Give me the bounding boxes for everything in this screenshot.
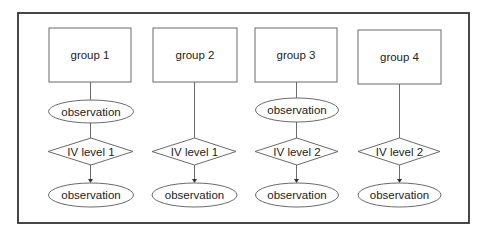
- post-observation-label: observation: [267, 189, 326, 201]
- post-observation-label: observation: [165, 189, 224, 201]
- group-label: group 2: [175, 49, 214, 61]
- solomon-four-group-diagram: group 1 observation IV level 1 observati…: [0, 0, 481, 233]
- treatment-label: IV level 1: [171, 146, 218, 158]
- group-label: group 3: [276, 49, 315, 61]
- treatment-label: IV level 1: [67, 146, 114, 158]
- post-observation-label: observation: [370, 189, 429, 201]
- treatment-label: IV level 2: [376, 146, 423, 158]
- group-label: group 4: [380, 51, 420, 63]
- group-label: group 1: [70, 49, 109, 61]
- treatment-label: IV level 2: [273, 146, 320, 158]
- pre-observation-label: observation: [61, 106, 120, 118]
- post-observation-label: observation: [61, 189, 120, 201]
- pre-observation-label: observation: [267, 104, 326, 116]
